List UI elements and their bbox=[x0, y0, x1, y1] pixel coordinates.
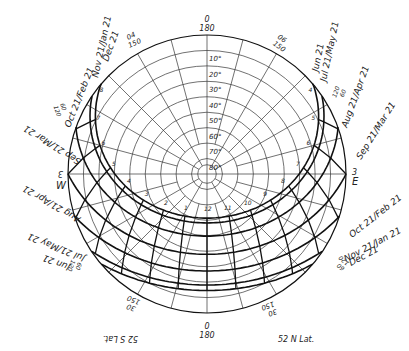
azimuth-line-75 bbox=[237, 138, 341, 166]
hour-marker-11: 11 bbox=[224, 204, 232, 211]
hour-marker-9: 9 bbox=[263, 190, 267, 197]
hour-marker-15: 3 bbox=[145, 190, 149, 197]
hour-marker-8: 8 bbox=[281, 177, 285, 184]
altitude-label-70: 70° bbox=[209, 148, 221, 156]
hour-marker-14: 2 bbox=[164, 199, 168, 206]
hour-marker-12: 12 bbox=[204, 205, 212, 212]
date-label-left-aug-apr: Aug 21/Apr 21 bbox=[21, 183, 83, 225]
north-label-zero: 0 bbox=[204, 15, 209, 24]
hour-marker-6: 6 bbox=[307, 139, 311, 146]
hour-marker-10: 10 bbox=[244, 199, 252, 206]
azimuth-label-ene-b: 60 bbox=[338, 88, 347, 98]
altitude-label-20: 20° bbox=[209, 71, 221, 79]
hour-marker-4: 4 bbox=[309, 86, 313, 93]
azimuth-line-300 bbox=[87, 105, 199, 170]
hour-marker-18: 6 bbox=[101, 139, 105, 146]
hour-marker-7: 7 bbox=[296, 160, 300, 167]
north-label-180: 180 bbox=[199, 24, 214, 33]
hour-marker-19: 7 bbox=[97, 114, 101, 121]
sun-path-diagram: 0 180 0 180 10°20°30°40°50°60°70°80° E 3… bbox=[0, 0, 409, 351]
altitude-label-80: 80° bbox=[209, 164, 221, 172]
hour-marker-5: 5 bbox=[311, 114, 315, 121]
hour-marker-20: 8 bbox=[99, 86, 103, 93]
west-label: W bbox=[56, 180, 67, 191]
hour-marker-16: 4 bbox=[127, 177, 131, 184]
hour-marker-13: 1 bbox=[184, 204, 188, 211]
east-marker: 3 bbox=[352, 168, 357, 177]
west-marker: 3 bbox=[58, 169, 63, 178]
hour-line-16 bbox=[95, 186, 125, 254]
hour-markers: 45678910111212345678 bbox=[97, 86, 316, 212]
altitude-label-40: 40° bbox=[209, 102, 221, 110]
date-label-right-sep-mar: Sep 21/Mar 21 bbox=[354, 100, 397, 161]
azimuth-line-345 bbox=[171, 40, 199, 144]
hour-marker-17: 5 bbox=[112, 160, 116, 167]
azimuth-line-285 bbox=[73, 138, 177, 166]
altitude-label-30: 30° bbox=[209, 86, 221, 94]
azimuth-line-330 bbox=[138, 54, 203, 166]
east-label: E bbox=[352, 176, 359, 187]
south-label-180: 180 bbox=[199, 331, 214, 340]
hour-line-8 bbox=[289, 186, 319, 254]
latitude-label: 52 N Lat. bbox=[278, 335, 314, 344]
date-label-left-sep-mar: Sep 21/Mar 21 bbox=[22, 123, 83, 166]
south-label-zero: 0 bbox=[204, 322, 209, 331]
latitude-label-mirrored: 52 S Lat. bbox=[103, 334, 138, 343]
altitude-label-10: 10° bbox=[209, 55, 221, 63]
altitude-label-50: 50° bbox=[209, 117, 221, 125]
altitude-label-60: 60° bbox=[209, 133, 221, 141]
